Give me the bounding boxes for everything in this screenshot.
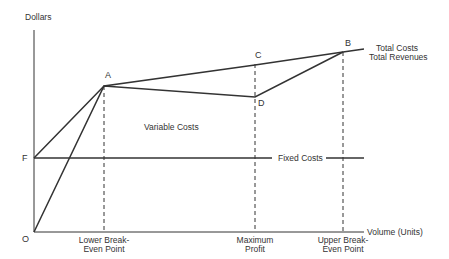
fixed-costs-label: Fixed Costs bbox=[278, 153, 323, 163]
total-costs-line bbox=[34, 52, 343, 158]
point-b-label: B bbox=[345, 38, 351, 48]
point-d-label: D bbox=[258, 98, 265, 108]
total-revenues-line bbox=[34, 49, 364, 232]
point-f-label: F bbox=[22, 153, 28, 163]
x-axis-label: Volume (Units) bbox=[367, 227, 423, 237]
lower-breakeven-label-2: Even Point bbox=[83, 244, 125, 254]
y-axis-label: Dollars bbox=[25, 12, 51, 22]
max-profit-label-2: Profit bbox=[245, 244, 265, 254]
variable-costs-label: Variable Costs bbox=[144, 122, 199, 132]
break-even-diagram: Dollars Volume (Units) O F A C D B Total… bbox=[0, 0, 449, 259]
point-c-label: C bbox=[255, 50, 262, 60]
origin-label: O bbox=[22, 234, 29, 244]
upper-breakeven-label-2: Even Point bbox=[322, 244, 364, 254]
point-a-label: A bbox=[105, 70, 111, 80]
total-revenues-label: Total Revenues bbox=[369, 52, 428, 62]
